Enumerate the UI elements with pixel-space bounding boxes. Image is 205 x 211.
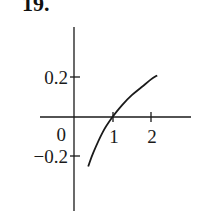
y-tick-label-neg0.2: −0.2 — [34, 146, 68, 167]
origin-label: 0 — [57, 124, 67, 145]
chart: 0.2 −0.2 0 1 2 — [0, 0, 205, 211]
x-tick-label-1: 1 — [109, 126, 119, 147]
data-curve — [88, 75, 157, 166]
y-tick-label-0.2: 0.2 — [44, 67, 68, 88]
x-tick-label-2: 2 — [147, 126, 157, 147]
